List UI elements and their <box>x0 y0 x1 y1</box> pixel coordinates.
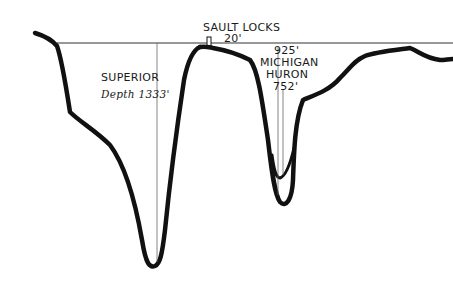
superior-name-label: SUPERIOR <box>101 72 159 84</box>
superior-basin-outline <box>35 33 200 267</box>
great-lakes-depth-diagram: SAULT LOCKS 20' SUPERIOR Depth 1333' 925… <box>0 0 453 292</box>
huron-depth-label: 752' <box>273 81 298 93</box>
superior-depth-label: Depth 1333' <box>101 88 170 100</box>
michigan-huron-basin-outline <box>200 47 453 204</box>
sault-locks-height-label: 20' <box>224 33 242 45</box>
